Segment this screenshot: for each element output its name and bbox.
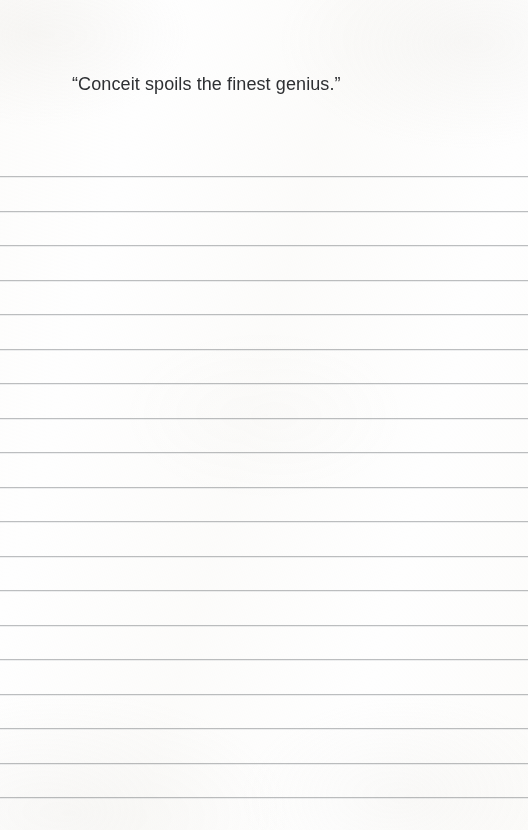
page-header: “Conceit spoils the finest genius.” <box>0 0 528 176</box>
notebook-page: “Conceit spoils the finest genius.” <box>0 0 528 830</box>
writing-area[interactable] <box>0 176 528 830</box>
page-title-quote: “Conceit spoils the finest genius.” <box>72 72 341 96</box>
